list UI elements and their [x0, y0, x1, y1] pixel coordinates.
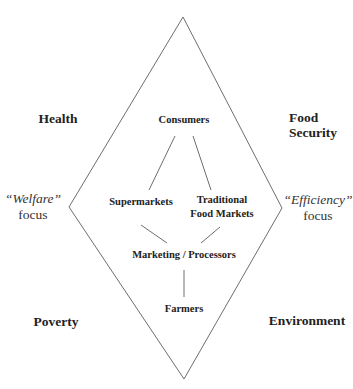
edge-consumers-supermarkets	[149, 136, 175, 190]
label-environment: Environment	[269, 314, 345, 328]
node-marketing-processors: Marketing / Processors	[132, 250, 236, 261]
node-consumers: Consumers	[159, 115, 210, 126]
node-supermarkets: Supermarkets	[109, 197, 173, 208]
label-welfare-focus-word: focus	[5, 207, 61, 223]
edge-supermarkets-processors	[141, 225, 167, 243]
food-system-diamond-diagram: Health Food Security Poverty Environment…	[0, 0, 353, 389]
label-welfare-focus: “Welfare” focus	[5, 191, 61, 222]
label-food-security-line1: Food	[289, 111, 337, 126]
label-health: Health	[39, 112, 78, 126]
node-traditional-food-markets: Traditional Food Markets	[190, 193, 253, 220]
node-farmers: Farmers	[165, 304, 203, 315]
node-traditional-line2: Food Markets	[190, 207, 253, 221]
label-poverty: Poverty	[34, 315, 79, 329]
label-food-security-line2: Security	[289, 126, 337, 141]
label-efficiency: “Efficiency”	[284, 192, 353, 208]
label-efficiency-focus-word: focus	[284, 208, 353, 224]
edge-consumers-traditional	[193, 136, 211, 190]
edge-traditional-processors	[201, 227, 220, 243]
node-traditional-line1: Traditional	[190, 193, 253, 207]
label-efficiency-focus: “Efficiency” focus	[284, 192, 353, 223]
label-food-security: Food Security	[289, 111, 337, 141]
label-welfare: “Welfare”	[5, 191, 61, 207]
